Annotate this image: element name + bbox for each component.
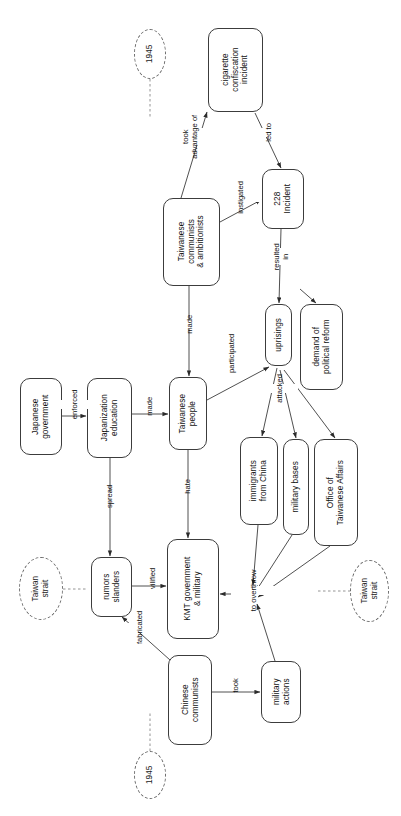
edge-label-vilified: vilified: [139, 574, 167, 583]
node-label: Taiwanesecommunists& ambitionists: [177, 216, 206, 268]
edge-label-line1: participated: [228, 332, 237, 374]
edge-label-line1: took advantage of: [182, 115, 199, 159]
node-cigarette-confiscation-incident[interactable]: cigaretteconfiscationincident: [208, 28, 263, 112]
node-office-of-taiwanese-affairs[interactable]: Office ofTaiwanese Affairs: [314, 439, 358, 546]
edge-label-line1: made: [146, 393, 155, 419]
edge-overthrow-actions: [257, 604, 275, 661]
node-taiwanese-communists-ambitionists[interactable]: Taiwanesecommunists& ambitionists: [163, 198, 220, 286]
node-label: Japanizationeducation: [100, 394, 119, 441]
node-label: demand ofpolitical reform: [312, 320, 331, 375]
node-label: 228Incident: [273, 184, 292, 213]
annotation-year-1945-bottom: 1945: [134, 751, 166, 799]
node-kmt-government-military[interactable]: KMT government& military: [167, 539, 219, 639]
node-label: rumorsslanders: [102, 571, 121, 603]
node-label: cigaretteconfiscationincident: [221, 48, 250, 92]
annotation-taiwan-strait-left: Taiwanstrait: [19, 557, 63, 620]
node-label: KMT government& military: [183, 557, 202, 621]
edge-label-instigated: instigated: [221, 193, 261, 202]
node-label: uprisings: [274, 318, 284, 352]
edge-label-spread: spread: [94, 492, 126, 501]
edge-label-line1: fabricated: [136, 608, 145, 646]
edge-label-resulted-in: resulted in: [266, 248, 298, 265]
edge-label-line1: made: [186, 311, 195, 337]
edge-label-took: took: [223, 681, 249, 690]
edge-label-line1: vilified: [149, 565, 158, 591]
edge-label-line1: instigated: [237, 178, 246, 216]
edge-label-participated: participated: [210, 349, 254, 358]
node-label: militaryactions: [271, 679, 290, 706]
edge-label-line1: hate: [184, 474, 193, 498]
edge-label-made-education: made: [136, 402, 164, 411]
node-military-actions[interactable]: militaryactions: [261, 661, 301, 723]
edge-overthrow-bases: [256, 535, 292, 591]
node-demand-of-political-reform[interactable]: demand ofpolitical reform: [300, 304, 343, 390]
edge-label-attacked: attacked: [262, 384, 298, 393]
edge-label-line1: took: [232, 673, 241, 697]
edge-label-took-advantage-of: took advantage of: [168, 128, 214, 145]
edge-label-enforced: enforced: [57, 400, 93, 409]
node-label: military bases: [291, 461, 301, 512]
node-label: Taiwanesepeople: [178, 394, 197, 434]
annotation-label: 1945: [145, 45, 155, 63]
annotation-label: 1945: [145, 766, 155, 784]
edge-label-to-overthrow: to overthrow: [231, 586, 277, 595]
node-japanese-government[interactable]: Japanesegovernment: [20, 378, 62, 455]
node-taiwanese-people[interactable]: Taiwanesepeople: [169, 377, 207, 450]
node-military-bases[interactable]: military bases: [283, 439, 309, 535]
node-chinese-communists[interactable]: Chinesecommunists: [168, 655, 212, 745]
edge-label-fabricated: fabricated: [120, 623, 160, 632]
annotation-label: Taiwanstrait: [360, 578, 379, 604]
edge-uprisings-demand: [300, 289, 316, 303]
annotation-label: Taiwanstrait: [31, 576, 50, 602]
edge-label-led-to: led to: [253, 128, 285, 137]
edge-participated: [207, 367, 269, 400]
concept-map-canvas: cigaretteconfiscationincident Taiwanesec…: [0, 0, 401, 816]
edge-label-made-communists: made: [176, 320, 204, 329]
annotation-year-1945-top: 1945: [134, 29, 166, 79]
edge-label-hate: hate: [175, 482, 201, 491]
edge-label-line1: attacked: [276, 371, 285, 405]
annotation-taiwan-strait-right: Taiwanstrait: [350, 560, 389, 622]
edge-label-line1: to overthrow: [250, 568, 259, 612]
node-label: Chinesecommunists: [180, 678, 199, 723]
node-japanization-education[interactable]: Japanizationeducation: [87, 378, 132, 458]
node-immigrants-from-china[interactable]: immigrantsfrom China: [240, 437, 278, 525]
node-uprisings[interactable]: uprisings: [265, 304, 292, 366]
node-label: Japanesegovernment: [31, 394, 50, 438]
node-label: Office ofTaiwanese Affairs: [326, 460, 345, 525]
node-228-incident[interactable]: 228Incident: [262, 169, 304, 229]
edge-label-line1: enforced: [71, 387, 80, 421]
node-label: immigrantsfrom China: [249, 460, 268, 501]
edge-label-line1: spread: [106, 481, 115, 511]
edge-label-line1: resulted in: [273, 242, 290, 272]
edge-label-line1: led to: [265, 117, 274, 147]
node-rumors-slanders[interactable]: rumorsslanders: [91, 557, 132, 617]
